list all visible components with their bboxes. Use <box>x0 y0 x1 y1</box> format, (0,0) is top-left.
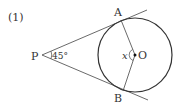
angle-label-x: x <box>122 50 128 61</box>
point-label-o: O <box>138 49 147 62</box>
center-point-o <box>134 54 137 57</box>
point-label-b: B <box>114 92 122 105</box>
tangent-circle-diagram: (1) P A B O 45° x <box>0 0 183 106</box>
angle-label-p: 45° <box>52 51 68 61</box>
point-label-p: P <box>31 50 39 63</box>
problem-number: (1) <box>8 11 24 24</box>
tangent-line-pa <box>42 10 147 55</box>
angle-arc-o <box>129 50 133 61</box>
point-label-a: A <box>113 6 123 19</box>
tangent-line-pb <box>42 55 148 100</box>
